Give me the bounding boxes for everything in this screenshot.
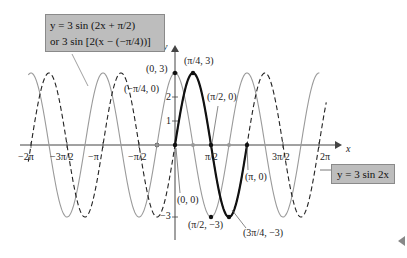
xtick-neg2pi: −2π [18,151,34,162]
annotation-box-base: y = 3 sin 2x [331,164,395,184]
leader-line-pi [247,147,248,170]
point-label-0-3: (0, 3) [146,63,168,75]
point-label-pi2-0: (π/2, 0) [207,91,237,103]
key-point [227,215,231,219]
annotation-base-label: y = 3 sin 2x [337,168,389,180]
key-point [209,215,213,219]
point-label-0-0: (0, 0) [177,194,199,206]
shifted-zero-point [155,143,159,147]
point-label-negpi4-0: (−π/4, 0) [124,83,159,95]
xtick-2pi: 2π [320,151,330,162]
key-point [245,143,249,147]
point-label-pi-0: (π, 0) [245,171,267,183]
xtick-3pi2: 3π/2 [272,151,290,162]
annotation-box-shifted: y = 3 sin (2x + π/2) or 3 sin [2(x − (−π… [45,14,165,52]
shifted-zero-point [227,143,231,147]
xtick-negpi2: −π/2 [128,151,146,162]
y-axis-arrow-icon [171,45,179,52]
x-axis-label: x [345,143,351,154]
key-point [191,71,195,75]
annotation-line2: or 3 sin [2(x − (−π/4))] [50,33,160,49]
previous-arrow-icon[interactable] [398,236,405,246]
point-label-3pi4-neg3: (3π/4, −3) [243,227,283,239]
leader-line-3pi4 [232,210,246,228]
point-label-pi4-3: (π/4, 3) [184,55,214,67]
shifted-zero-point [191,143,195,147]
point-label-pi2-neg3: (π/2, −3) [188,219,223,231]
leader-line-pi2 [212,106,218,143]
leader-line-origin [176,148,180,193]
xtick-pi2: π/2 [205,151,218,162]
key-point [173,143,177,147]
ytick-2: 2 [166,91,171,102]
leader-line-box1 [72,54,88,86]
annotation-line1: y = 3 sin (2x + π/2) [50,17,160,33]
xtick-neg3pi2: −3π/2 [50,151,73,162]
key-point [209,143,213,147]
ytick-1: 1 [166,115,171,126]
xtick-negpi: −π [88,151,99,162]
x-axis-arrow-icon [335,141,342,149]
ytick-neg3: −3 [160,210,171,221]
key-point [173,71,177,75]
